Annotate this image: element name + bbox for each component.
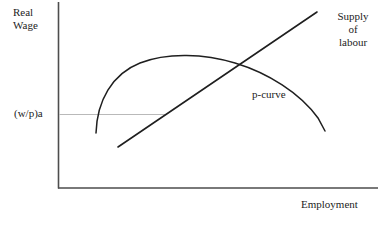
p-curve-label: p-curve — [252, 88, 286, 101]
y-axis-label: Real Wage — [13, 6, 38, 32]
p-curve-path — [96, 55, 325, 133]
labour-supply-line — [118, 12, 317, 147]
labour-supply-curve-label: Supply of labour — [322, 10, 384, 49]
economics-diagram: Real Wage (w/p)a Supply of labour p-curv… — [0, 0, 391, 225]
y-axis-tick-label: (w/p)a — [14, 107, 43, 120]
x-axis-label: Employment — [301, 198, 358, 211]
